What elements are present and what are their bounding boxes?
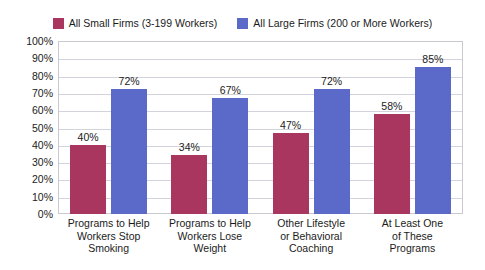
bar[interactable] [70, 145, 106, 214]
x-axis-category-label: At Least Oneof ThesePrograms [382, 217, 443, 255]
grouped-bar-chart: All Small Firms (3-199 Workers)All Large… [0, 0, 485, 270]
bars-layer: 40%72%34%67%47%72%58%85% [58, 41, 463, 214]
bar-value-label: 72% [321, 75, 342, 87]
y-axis-tick-label: 20% [0, 174, 53, 185]
y-axis-tick-label: 50% [0, 122, 53, 133]
y-axis-tick-label: 40% [0, 139, 53, 150]
y-axis-tick-label: 60% [0, 105, 53, 116]
bar-value-label: 85% [422, 53, 443, 65]
y-axis-tick-label: 90% [0, 53, 53, 64]
bar[interactable] [171, 155, 207, 214]
x-axis: Programs to HelpWorkers StopSmokingProgr… [58, 217, 463, 267]
x-axis-category-line: Programs [382, 242, 443, 255]
legend-swatch-icon [237, 18, 248, 29]
x-axis-category-line: Programs to Help [169, 217, 251, 230]
x-axis-category-line: Programs to Help [68, 217, 150, 230]
legend-label: All Small Firms (3-199 Workers) [69, 17, 218, 29]
legend-entry[interactable]: All Small Firms (3-199 Workers) [53, 17, 218, 29]
legend-swatch-icon [53, 18, 64, 29]
bar-value-label: 47% [280, 119, 301, 131]
x-axis-category-line: or Behavioral [277, 230, 345, 243]
bar[interactable] [111, 89, 147, 214]
x-axis-category-label: Programs to HelpWorkers LoseWeight [169, 217, 251, 255]
bar[interactable] [374, 114, 410, 214]
legend-label: All Large Firms (200 or More Workers) [253, 17, 432, 29]
x-axis-category-line: At Least One [382, 217, 443, 230]
bar-value-label: 72% [119, 75, 140, 87]
x-axis-category-line: Coaching [277, 242, 345, 255]
y-axis-tick-label: 10% [0, 191, 53, 202]
x-axis-category-line: Workers Lose [169, 230, 251, 243]
x-axis-category-label: Programs to HelpWorkers StopSmoking [68, 217, 150, 255]
x-axis-category-line: Other Lifestyle [277, 217, 345, 230]
bar[interactable] [415, 67, 451, 214]
x-axis-category-line: Smoking [68, 242, 150, 255]
bar-value-label: 58% [381, 100, 402, 112]
y-axis: 0%10%20%30%40%50%60%70%80%90%100% [0, 41, 53, 214]
bar[interactable] [273, 133, 309, 214]
x-axis-category-line: Workers Stop [68, 230, 150, 243]
y-axis-tick-label: 0% [0, 209, 53, 220]
y-axis-tick-label: 80% [0, 70, 53, 81]
y-axis-tick-label: 70% [0, 87, 53, 98]
bar-value-label: 67% [220, 84, 241, 96]
bar[interactable] [212, 98, 248, 214]
chart-legend: All Small Firms (3-199 Workers)All Large… [0, 14, 485, 32]
y-axis-tick-label: 30% [0, 157, 53, 168]
x-axis-category-label: Other Lifestyleor BehavioralCoaching [277, 217, 345, 255]
bar[interactable] [314, 89, 350, 214]
x-axis-category-line: of These [382, 230, 443, 243]
x-axis-category-line: Weight [169, 242, 251, 255]
bar-value-label: 34% [179, 141, 200, 153]
y-axis-tick-label: 100% [0, 36, 53, 47]
legend-entry[interactable]: All Large Firms (200 or More Workers) [237, 17, 432, 29]
bar-value-label: 40% [78, 131, 99, 143]
